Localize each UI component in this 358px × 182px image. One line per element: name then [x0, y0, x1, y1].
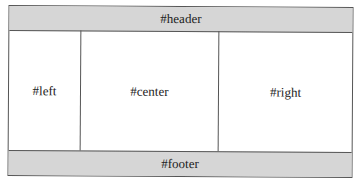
center-label: #center — [130, 83, 168, 99]
header-label: #header — [160, 11, 201, 27]
left-column: #left — [9, 30, 82, 151]
center-column: #center — [81, 30, 220, 152]
footer-label: #footer — [161, 156, 199, 172]
layout-diagram: #header #left #center #right #footer — [7, 5, 353, 178]
footer-region: #footer — [8, 150, 351, 177]
right-label: #right — [270, 84, 301, 100]
columns-row: #left #center #right — [9, 30, 353, 153]
header-region: #header — [9, 6, 352, 33]
left-label: #left — [33, 83, 57, 99]
right-column: #right — [219, 31, 353, 153]
